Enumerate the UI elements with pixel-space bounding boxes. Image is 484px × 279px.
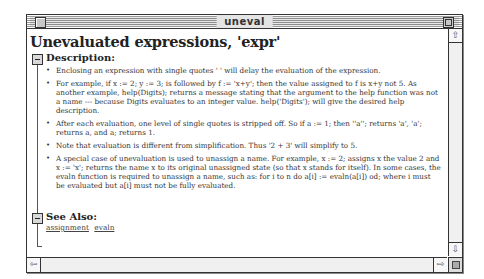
window-title: uneval (216, 15, 273, 28)
collapse-description-toggle[interactable] (32, 54, 43, 65)
scroll-right-arrow-icon[interactable]: ⇨ (433, 258, 447, 272)
close-box-icon[interactable] (35, 17, 46, 28)
list-item: A special case of unevaluation is used t… (46, 154, 441, 190)
description-list: Enclosing an expression with single quot… (46, 66, 441, 194)
collapse-see-also-toggle[interactable] (32, 213, 43, 224)
vertical-scrollbar[interactable]: ⇧ ⇩ (448, 29, 462, 256)
help-content: Unevaluated expressions, 'expr' Descript… (27, 29, 447, 256)
page-title: Unevaluated expressions, 'expr' (30, 33, 280, 50)
scroll-down-arrow-icon[interactable]: ⇩ (449, 242, 462, 256)
see-also-heading: See Also: (46, 211, 97, 222)
list-item: Note that evaluation is different from s… (46, 141, 441, 150)
list-item: Enclosing an expression with single quot… (46, 66, 441, 75)
title-bar[interactable]: uneval (27, 15, 462, 29)
link-evaln[interactable]: evaln (94, 223, 114, 232)
see-also-links: assignment evaln (46, 223, 117, 232)
scroll-left-arrow-icon[interactable]: ⇦ (27, 258, 41, 272)
description-heading: Description: (46, 52, 115, 63)
section-bracket (37, 65, 38, 215)
link-assignment[interactable]: assignment (46, 223, 89, 232)
help-window: uneval Unevaluated expressions, 'expr' D… (26, 14, 463, 273)
scroll-up-arrow-icon[interactable]: ⇧ (449, 29, 462, 43)
horizontal-scrollbar[interactable]: ⇦ ⇨ (27, 257, 447, 272)
list-item: For example, if x := 2; y := 3; is follo… (46, 79, 441, 115)
list-item: After each evaluation, one level of sing… (46, 119, 441, 137)
section-bracket (37, 224, 38, 247)
zoom-box-icon[interactable] (443, 17, 454, 28)
resize-grow-box-icon[interactable] (448, 257, 462, 272)
